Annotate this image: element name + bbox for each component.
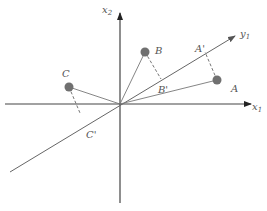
label-B: B xyxy=(154,45,162,56)
label-C-prime: C' xyxy=(86,129,96,140)
projection-B xyxy=(145,52,161,79)
y1-label: y1 xyxy=(239,28,250,41)
label-B-prime: B' xyxy=(157,84,168,95)
projection-A xyxy=(205,52,217,80)
x2-label: x2 xyxy=(102,4,113,17)
label-A: A xyxy=(230,83,238,94)
label-C: C xyxy=(62,68,70,79)
point-A xyxy=(213,76,222,85)
vector-C xyxy=(69,87,120,104)
point-C xyxy=(65,83,74,92)
x1-label: x1 xyxy=(252,101,262,114)
vector-B xyxy=(120,52,145,104)
vector-A xyxy=(120,80,217,104)
pca-projection-diagram: x1 x2 y1 A A' B B' C C' xyxy=(0,0,267,211)
label-A-prime: A' xyxy=(194,43,205,54)
point-B xyxy=(141,48,150,57)
